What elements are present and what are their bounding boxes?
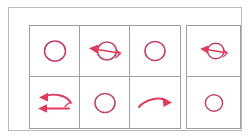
grid-cell-r1c3[interactable]: Circle <box>130 26 180 77</box>
symbol-grid-main-table: Circle Circle with leftward arrow throug… <box>29 25 181 129</box>
grid-cell-r1c1[interactable]: Circle <box>30 26 80 77</box>
curved-and-straight-arrow-left-icon <box>33 86 77 120</box>
figure-outer-frame: Circle Circle with leftward arrow throug… <box>8 7 242 131</box>
circle-with-arrow-left-icon <box>83 34 127 68</box>
circle-icon <box>133 34 177 68</box>
screenshot-root: Circle Circle with leftward arrow throug… <box>0 0 250 138</box>
grid-cell-r2c1[interactable]: Curved arrow left above a straight arrow… <box>30 77 80 128</box>
circle-with-arrow-left-icon <box>195 36 233 66</box>
curved-arrow-right-icon <box>133 86 177 120</box>
symbol-grid-side-box: Circle with leftward arrow through it Ci… <box>186 25 241 129</box>
symbol-grid: Circle Circle with leftward arrow throug… <box>29 25 241 129</box>
grid-cell-r2c3[interactable]: Curved arrow pointing right <box>130 77 180 128</box>
circle-icon <box>195 88 233 118</box>
grid-cell-r2c4[interactable]: Circle <box>187 77 240 128</box>
grid-cell-r1c4[interactable]: Circle with leftward arrow through it <box>187 26 240 77</box>
circle-icon <box>33 34 77 68</box>
circle-icon <box>83 86 127 120</box>
grid-cell-r1c2[interactable]: Circle with leftward arrow through it <box>80 26 130 77</box>
grid-cell-r2c2[interactable]: Circle <box>80 77 130 128</box>
